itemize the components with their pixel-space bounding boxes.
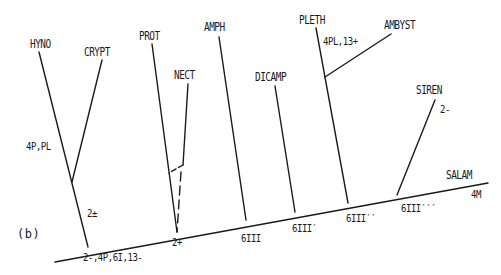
cladogram-figure: HYNO CRYPT PROT NECT AMPH DICAMP PLETH A…: [0, 0, 501, 275]
taxon-label-prot: PROT: [139, 31, 160, 42]
panel-label: (b): [17, 229, 40, 240]
character-label-prot-nect: 2+: [172, 237, 182, 248]
taxon-label-dicamp: DICAMP: [255, 72, 286, 83]
character-label-hyno-crypt: 4P,PL: [26, 141, 51, 152]
character-label-pleth-ambyst: 4PL,13+: [323, 36, 358, 47]
nect-branch-solid: [183, 84, 188, 165]
crypt-branch: [72, 60, 102, 182]
taxon-label-hyno: HYNO: [30, 39, 51, 50]
siren-branch: [397, 100, 435, 195]
nect-branch-dashed: [177, 172, 181, 232]
taxon-label-siren: SIREN: [416, 85, 442, 96]
taxon-label-crypt: CRYPT: [84, 47, 110, 58]
character-label-amph: 6III: [241, 233, 261, 244]
character-label-pleth: 6III′′: [346, 213, 376, 224]
taxon-label-amph: AMPH: [204, 22, 225, 33]
character-label-salam: 4M: [471, 189, 481, 200]
character-label-siren: 2-: [440, 104, 450, 115]
taxon-label-pleth: PLETH: [299, 15, 325, 26]
amph-branch: [219, 37, 246, 220]
taxon-label-ambyst: AMBYST: [384, 20, 415, 31]
taxon-label-nect: NECT: [174, 70, 195, 81]
character-label-dicamp: 6III′: [292, 223, 317, 234]
taxon-label-salam: SALAM: [446, 170, 472, 181]
character-label-root: 2-,4P,6I,13-: [83, 252, 142, 263]
dicamp-branch: [275, 86, 295, 212]
character-label-siren-node: 6III′′′: [401, 203, 436, 214]
pleth-branch: [316, 28, 348, 203]
character-label-hyno-crypt-stem: 2±: [87, 208, 97, 219]
